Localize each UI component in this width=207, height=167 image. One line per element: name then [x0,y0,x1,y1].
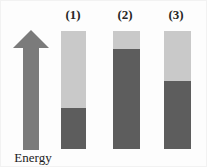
column-label-1: (1) [53,7,93,23]
energy-bar-1 [61,31,86,149]
energy-bar-3 [164,31,191,149]
bar-3-filled-segment [164,81,191,149]
up-arrow-icon [11,30,51,150]
bar-2-unfilled-segment [113,31,140,49]
energy-diagram: (1) (2) (3) Energy [0,0,207,167]
bar-2-filled-segment [113,49,140,149]
bar-3-unfilled-segment [164,31,191,81]
column-label-2: (2) [105,7,145,23]
bar-1-unfilled-segment [61,31,86,108]
column-label-3: (3) [156,7,196,23]
energy-bar-2 [113,31,140,149]
energy-axis-label: Energy [4,150,62,165]
bar-1-filled-segment [61,108,86,149]
